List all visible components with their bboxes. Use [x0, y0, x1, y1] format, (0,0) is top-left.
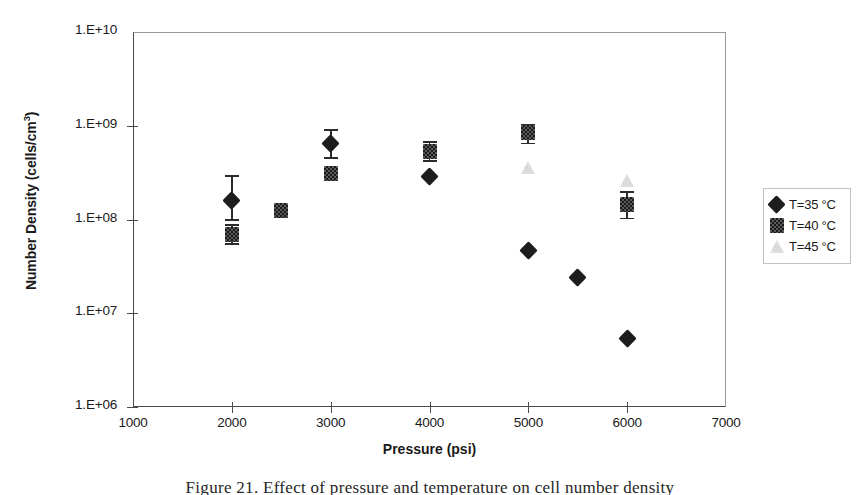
figure-caption: Figure 21. Effect of pressure and temper…: [0, 479, 860, 495]
y-axis-title-exponent: 3: [21, 116, 32, 121]
y-axis-tick-mark: [127, 220, 138, 221]
legend-item[interactable]: T=35 °C: [769, 194, 846, 215]
y-axis-tick-label: 1.E+09: [75, 116, 117, 131]
y-axis-title: Number Density (cells/cm3): [21, 21, 39, 381]
y-axis-title-main: Number Density (cells/cm: [23, 121, 39, 290]
chart-legend: T=35 °CT=40 °CT=45 °C: [763, 188, 851, 264]
y-axis-tick-mark: [127, 407, 138, 408]
x-axis-tick-mark: [627, 402, 628, 413]
x-axis-tick-label: 3000: [291, 415, 371, 430]
y-axis-title-tail: ): [23, 112, 39, 117]
error-bar-cap-bottom: [225, 219, 239, 221]
marker-square: [324, 166, 338, 181]
error-bar-cap-bottom: [225, 243, 239, 245]
error-bar-cap-top: [324, 129, 338, 131]
y-axis-tick-mark: [127, 126, 138, 127]
marker-triangle: [770, 240, 784, 253]
legend-item[interactable]: T=40 °C: [769, 215, 846, 236]
legend-item-label: T=45 °C: [789, 239, 836, 254]
legend-marker-square-icon: [769, 218, 784, 233]
legend-item-label: T=40 °C: [789, 218, 836, 233]
x-axis-tick-label: 4000: [390, 415, 470, 430]
legend-item[interactable]: T=45 °C: [769, 236, 846, 257]
error-bar-cap-bottom: [324, 157, 338, 159]
legend-marker-diamond-icon: [769, 197, 784, 212]
marker-square: [423, 144, 437, 159]
x-axis-tick-mark: [331, 402, 332, 413]
y-axis-tick-label: 1.E+06: [75, 397, 117, 412]
error-bar-cap-bottom: [423, 160, 437, 162]
x-axis-title: Pressure (psi): [133, 441, 726, 457]
marker-square: [770, 218, 784, 233]
marker-square: [225, 227, 239, 242]
marker-triangle: [521, 161, 535, 174]
error-bar-cap-top: [620, 191, 634, 193]
legend-marker-triangle-icon: [769, 239, 784, 254]
error-bar-cap-top: [423, 141, 437, 143]
error-bar-cap-bottom: [521, 143, 535, 145]
y-axis-tick-mark: [127, 313, 138, 314]
plot-area: [133, 32, 726, 407]
marker-square: [274, 203, 288, 218]
marker-square: [620, 197, 634, 212]
x-axis-tick-label: 1000: [93, 415, 173, 430]
x-axis-tick-label: 7000: [686, 415, 766, 430]
x-axis-tick-label: 5000: [488, 415, 568, 430]
x-axis-tick-mark: [528, 402, 529, 413]
y-axis-tick-label: 1.E+07: [75, 303, 117, 318]
marker-triangle: [620, 174, 634, 187]
error-bar-cap-bottom: [620, 218, 634, 220]
error-bar-cap-top: [225, 224, 239, 226]
y-axis-tick-label: 1.E+10: [75, 22, 117, 37]
x-axis-tick-label: 6000: [587, 415, 667, 430]
error-bar-cap-top: [225, 175, 239, 177]
figure-container: Number Density (cells/cm3) 1.E+101.E+091…: [0, 0, 860, 495]
x-axis-tick-label: 2000: [192, 415, 272, 430]
marker-diamond: [767, 195, 785, 213]
x-axis-tick-mark: [232, 402, 233, 413]
x-axis-tick-mark: [430, 402, 431, 413]
figure-caption-text: Figure 21. Effect of pressure and temper…: [0, 479, 860, 495]
marker-square: [521, 125, 535, 140]
legend-item-label: T=35 °C: [789, 197, 836, 212]
y-axis-tick-label: 1.E+08: [75, 210, 117, 225]
